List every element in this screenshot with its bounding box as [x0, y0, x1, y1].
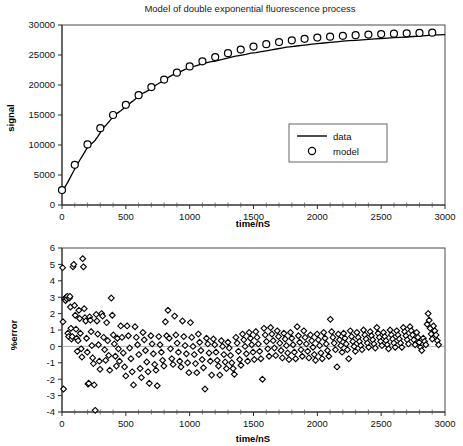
y-tick-label: 15000 — [29, 109, 55, 120]
x-tick-label: 3000 — [434, 211, 455, 222]
model-point — [301, 35, 308, 42]
y-tick-label: 25000 — [29, 49, 55, 60]
legend-circle-swatch-model — [308, 147, 315, 154]
y-tick-label: -1 — [47, 357, 55, 368]
y-tick-label: 2 — [50, 308, 55, 319]
x-tick-label: 500 — [118, 211, 134, 222]
y-tick-label: 6 — [50, 242, 55, 253]
model-point — [365, 31, 372, 38]
model-point — [250, 43, 257, 50]
model-point — [416, 29, 423, 36]
figure-root: Model of double exponential fluorescence… — [0, 0, 463, 446]
legend-top: data model — [289, 124, 387, 162]
model-point — [59, 187, 66, 194]
y-tick-label: 30000 — [29, 19, 55, 30]
x-tick-label: 2000 — [307, 211, 328, 222]
model-point — [135, 92, 142, 99]
model-point — [148, 84, 155, 91]
y-tick-label: 4 — [50, 275, 55, 286]
y-tick-label: 5 — [50, 259, 55, 270]
model-point — [288, 37, 295, 44]
x-axis-title-top: time/nS — [236, 218, 270, 229]
y-tick-label: 1 — [50, 324, 55, 335]
model-point — [276, 39, 283, 46]
y-axis-title-top: signal — [5, 104, 16, 131]
model-point — [390, 30, 397, 37]
model-point — [173, 69, 180, 76]
model-point — [224, 50, 231, 57]
x-tick-label: 0 — [59, 418, 64, 429]
model-point — [403, 30, 410, 37]
x-tick-label: 2500 — [371, 418, 392, 429]
y-tick-label: 0 — [50, 199, 55, 210]
figure-background — [0, 0, 463, 446]
y-tick-label: -4 — [47, 406, 55, 417]
y-tick-label: 0 — [50, 341, 55, 352]
legend-label-model: model — [333, 146, 359, 157]
x-tick-label: 3000 — [434, 418, 455, 429]
model-point — [212, 54, 219, 61]
model-point — [378, 31, 385, 38]
x-tick-label: 1000 — [179, 418, 200, 429]
y-tick-label: 3 — [50, 292, 55, 303]
x-tick-label: 0 — [59, 211, 64, 222]
model-point — [161, 76, 168, 83]
x-tick-label: 2500 — [371, 211, 392, 222]
model-point — [84, 141, 91, 148]
legend-label-data: data — [333, 131, 352, 142]
chart-title-top: Model of double exponential fluorescence… — [144, 3, 355, 14]
y-axis-title-bottom: %error — [8, 319, 19, 350]
model-point — [352, 32, 359, 39]
y-tick-label: 10000 — [29, 139, 55, 150]
model-point — [110, 112, 117, 119]
y-tick-label: -2 — [47, 374, 55, 385]
x-tick-label: 500 — [118, 418, 134, 429]
x-tick-label: 1000 — [179, 211, 200, 222]
model-point — [71, 161, 78, 168]
model-point — [122, 101, 129, 108]
x-axis-title-bottom: time/nS — [236, 433, 270, 444]
y-tick-label: 5000 — [34, 169, 55, 180]
model-point — [327, 33, 334, 40]
model-point — [429, 29, 436, 36]
model-point — [199, 58, 206, 65]
x-tick-label: 1500 — [243, 418, 264, 429]
y-tick-label: -3 — [47, 390, 55, 401]
model-point — [186, 63, 193, 70]
model-point — [237, 46, 244, 53]
model-point — [314, 34, 321, 41]
model-point — [97, 125, 104, 132]
model-point — [339, 32, 346, 39]
y-tick-label: 20000 — [29, 79, 55, 90]
x-tick-label: 2000 — [307, 418, 328, 429]
model-point — [263, 41, 270, 48]
